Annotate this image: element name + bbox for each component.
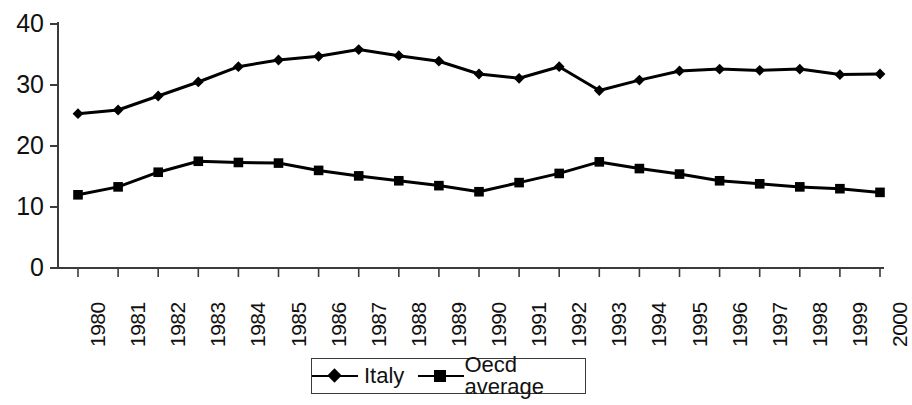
legend-item-italy: Italy <box>312 365 404 387</box>
square-marker-icon <box>113 182 123 192</box>
x-tick-label: 1988 <box>407 302 431 347</box>
x-tick-label: 1993 <box>607 302 631 347</box>
x-tick-label: 1996 <box>728 302 752 347</box>
y-axis-ticks <box>50 24 58 268</box>
square-marker-icon <box>434 181 444 191</box>
square-marker-icon <box>314 166 324 176</box>
x-tick-label: 1991 <box>527 302 551 347</box>
x-tick-label: 1995 <box>688 302 712 347</box>
diamond-marker-icon <box>754 65 765 76</box>
diamond-marker-icon <box>193 77 204 88</box>
x-tick-label: 1998 <box>808 302 832 347</box>
square-marker-icon <box>394 176 404 186</box>
y-tick-label: 20 <box>0 133 44 158</box>
diamond-marker-icon <box>875 69 886 80</box>
data-series-layer <box>73 44 886 199</box>
x-tick-label: 1997 <box>768 302 792 347</box>
legend-item-oecd-average: Oecd average <box>418 354 585 398</box>
square-marker-icon <box>715 176 725 186</box>
y-tick-label: 30 <box>0 72 44 97</box>
square-marker-icon <box>153 167 163 177</box>
square-marker-icon <box>418 369 458 383</box>
y-tick-label: 10 <box>0 194 44 219</box>
diamond-marker-icon <box>674 66 685 77</box>
diamond-marker-icon <box>312 369 358 383</box>
diamond-marker-icon <box>313 51 324 62</box>
square-marker-icon <box>795 182 805 192</box>
square-marker-icon <box>514 178 524 188</box>
square-marker-icon <box>354 171 364 181</box>
legend-label-oecd-average: Oecd average <box>462 354 585 398</box>
x-tick-label: 1999 <box>848 302 872 347</box>
diamond-marker-icon <box>634 75 645 86</box>
y-tick-label: 40 <box>0 11 44 36</box>
diamond-marker-icon <box>273 55 284 66</box>
square-marker-icon <box>875 188 885 198</box>
x-tick-label: 1983 <box>206 302 230 347</box>
diamond-marker-icon <box>113 105 124 116</box>
x-tick-label: 1984 <box>246 302 270 347</box>
square-marker-icon <box>234 158 244 168</box>
x-tick-label: 1989 <box>447 302 471 347</box>
x-tick-label: 1986 <box>327 302 351 347</box>
square-marker-icon <box>595 157 605 167</box>
square-marker-icon <box>554 169 564 179</box>
square-marker-icon <box>755 179 765 189</box>
x-tick-label: 1981 <box>126 302 150 347</box>
y-tick-label: 0 <box>0 255 44 280</box>
x-tick-label: 1990 <box>487 302 511 347</box>
square-marker-icon <box>274 158 284 168</box>
square-marker-icon <box>635 164 645 174</box>
diamond-marker-icon <box>514 73 525 84</box>
x-tick-label: 1992 <box>567 302 591 347</box>
square-marker-icon <box>474 187 484 197</box>
diamond-marker-icon <box>794 64 805 75</box>
square-marker-icon <box>73 190 83 200</box>
x-tick-label: 2000 <box>888 302 912 347</box>
legend-label-italy: Italy <box>362 365 404 387</box>
x-tick-label: 1980 <box>86 302 110 347</box>
diamond-marker-icon <box>353 44 364 55</box>
diamond-marker-icon <box>714 64 725 75</box>
square-marker-icon <box>835 184 845 194</box>
diamond-marker-icon <box>233 61 244 72</box>
diamond-marker-icon <box>835 69 846 80</box>
diamond-marker-icon <box>393 50 404 61</box>
square-marker-icon <box>675 169 685 179</box>
chart-legend: Italy Oecd average <box>311 358 586 394</box>
x-axis-ticks <box>78 268 880 277</box>
diamond-marker-icon <box>474 69 485 80</box>
x-tick-label: 1987 <box>367 302 391 347</box>
diamond-marker-icon <box>153 91 164 102</box>
square-marker-icon <box>194 156 204 166</box>
x-tick-label: 1994 <box>647 302 671 347</box>
x-tick-label: 1985 <box>287 302 311 347</box>
diamond-marker-icon <box>73 108 84 119</box>
x-tick-label: 1982 <box>166 302 190 347</box>
diamond-marker-icon <box>434 56 445 67</box>
